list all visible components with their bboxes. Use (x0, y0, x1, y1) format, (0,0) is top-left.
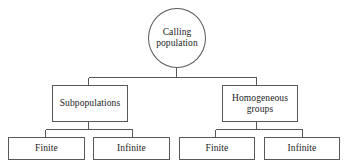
node-subpopulations-infinite-label: Infinite (117, 143, 146, 154)
node-homogeneous-infinite: Infinite (264, 137, 340, 160)
node-calling-population: Calling population (148, 8, 206, 68)
node-subpopulations-finite: Finite (8, 137, 85, 160)
node-subpopulations-infinite: Infinite (93, 137, 170, 160)
node-homogeneous-finite: Finite (179, 137, 255, 160)
node-subpopulations-label: Subpopulations (58, 98, 123, 109)
node-homogeneous-infinite-label: Infinite (288, 143, 317, 154)
node-homogeneous-groups: Homogeneous groups (222, 85, 298, 122)
node-homogeneous-groups-label: Homogeneous groups (230, 93, 290, 114)
node-calling-population-label: Calling population (153, 27, 201, 48)
node-subpopulations-finite-label: Finite (35, 143, 58, 154)
node-subpopulations: Subpopulations (52, 85, 128, 122)
node-homogeneous-finite-label: Finite (206, 143, 229, 154)
diagram-canvas: Calling population Subpopulations Homoge… (0, 0, 346, 164)
